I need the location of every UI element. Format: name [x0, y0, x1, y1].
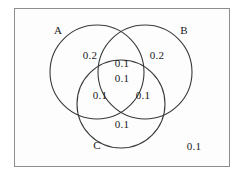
region-value-a-only: 0.2 — [83, 50, 97, 61]
set-label-b: B — [180, 25, 187, 36]
circle-set-b — [98, 25, 192, 119]
region-value-outside: 0.1 — [187, 141, 201, 152]
set-label-a: A — [54, 25, 62, 36]
venn-circles — [0, 0, 243, 180]
region-value-a-and-b-only: 0.1 — [115, 58, 129, 69]
circle-set-a — [50, 25, 144, 119]
region-value-b-only: 0.2 — [150, 50, 164, 61]
region-value-a-and-b-and-c: 0.1 — [115, 73, 129, 84]
set-label-c: C — [93, 140, 100, 151]
region-value-a-and-c-only: 0.1 — [93, 90, 107, 101]
region-value-c-only: 0.1 — [115, 119, 129, 130]
venn-diagram-figure: A B C 0.2 0.2 0.1 0.1 0.1 0.1 0.1 0.1 — [0, 0, 243, 180]
region-value-b-and-c-only: 0.1 — [136, 90, 150, 101]
